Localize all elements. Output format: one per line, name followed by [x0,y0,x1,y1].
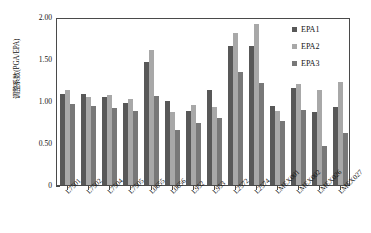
legend-label: EPA1 [301,25,319,34]
bar-group [228,19,243,185]
legend-label: EPA2 [301,42,319,51]
y-tick-label: 0.50 [26,140,52,148]
bar-chart: 调整系数(PGA/EPA) 00.501.001.502.00 L7501L75… [0,0,371,233]
bar [91,106,96,185]
bar [280,121,285,185]
legend-swatch-icon [292,61,297,66]
bar-group [144,19,159,185]
bar-group [207,19,222,185]
legend-item[interactable]: EPA3 [292,56,348,70]
bar [343,133,348,185]
bar [217,118,222,185]
bar [259,83,264,185]
bar [238,72,243,185]
bar-group [186,19,201,185]
bar [154,96,159,185]
y-tick-label: 0 [26,182,52,190]
y-axis-title: 调整系数(PGA/EPA) [10,19,24,119]
bar [196,123,201,185]
legend-item[interactable]: EPA2 [292,39,348,53]
legend-swatch-icon [292,44,297,49]
bar [133,111,138,185]
legend-item[interactable]: EPA1 [292,22,348,36]
bar-group [123,19,138,185]
y-tick-label: 1.00 [26,98,52,106]
legend-label: EPA3 [301,59,319,68]
y-tick-label: 1.50 [26,56,52,64]
bar-group [270,19,285,185]
bar [112,108,117,185]
legend-swatch-icon [292,27,297,32]
bar-group [165,19,180,185]
bar [301,110,306,185]
bar-group [81,19,96,185]
bar-group [60,19,75,185]
bar [70,104,75,185]
y-tick-label: 2.00 [26,14,52,22]
bar [175,130,180,185]
chart-legend: EPA1EPA2EPA3 [292,22,348,73]
bar-group [102,19,117,185]
bar-group [249,19,264,185]
